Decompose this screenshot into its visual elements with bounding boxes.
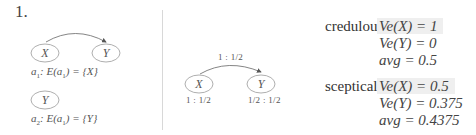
middle-node-y-label: Y	[258, 77, 266, 91]
credulous-ve-x: Ve(X) = 1	[377, 18, 443, 34]
credulous-label: credulous	[325, 18, 383, 35]
sceptical-label: sceptical	[325, 78, 377, 95]
node-x-label: X	[40, 46, 49, 60]
attack-edge-x-to-y	[46, 34, 106, 43]
sceptical-ve-y: Ve(Y) = 0.375	[379, 95, 463, 112]
node-x-weight-label: 1 : 1/2	[186, 95, 211, 105]
middle-node-x-label: X	[194, 77, 203, 91]
caption-a1-text-end: ) = {X}	[66, 65, 98, 77]
node-y-weight-label: 1/2 : 1/2	[248, 95, 281, 105]
node-y-label: Y	[103, 46, 111, 60]
credulous-ve-y: Ve(Y) = 0	[379, 35, 437, 52]
caption-a2-text-end: ) = {Y}	[66, 112, 98, 124]
caption-a1-text: : E(a	[40, 65, 62, 77]
node-y-alone-label: Y	[42, 93, 50, 107]
caption-a1: a1: E(a1) = {X}	[31, 65, 98, 80]
sceptical-avg: avg = 0.4375	[379, 112, 460, 129]
edge-weight-label: 1 : 1/2	[218, 52, 243, 62]
sceptical-ve-x: Ve(X) = 0.5	[377, 78, 455, 94]
credulous-avg: avg = 0.5	[379, 52, 437, 69]
caption-a2-text: : E(a	[40, 112, 62, 124]
weighted-attack-edge	[200, 65, 261, 74]
sceptical-line-1: Ve(X) = 0.5	[377, 78, 455, 95]
credulous-line-1: Ve(X) = 1	[377, 18, 443, 35]
caption-a2: a2: E(a1) = {Y}	[31, 112, 97, 127]
middle-labelled-graph: X Y	[160, 0, 320, 135]
